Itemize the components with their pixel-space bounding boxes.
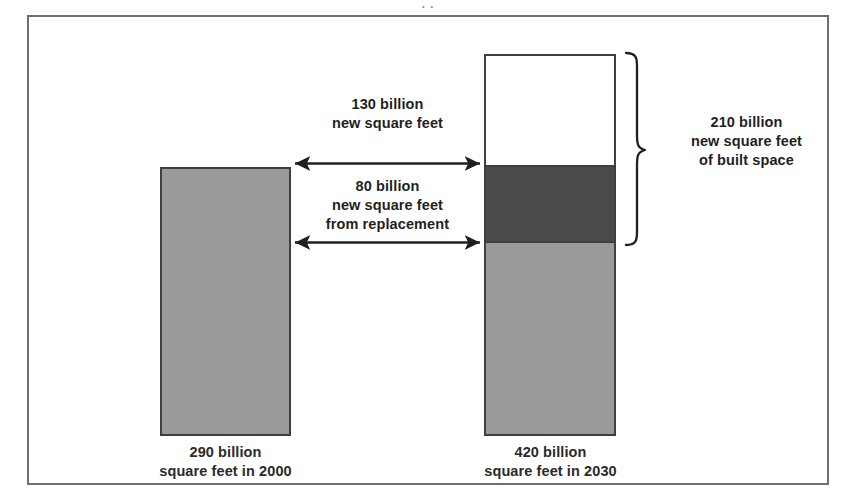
annotation-130-billion: 130 billion new square feet: [291, 95, 484, 133]
figure-root: · ·: [0, 0, 852, 502]
bar-2030-stack: [484, 54, 616, 436]
annotation-80-billion: 80 billion new square feet from replacem…: [291, 177, 484, 234]
annotation-210-line2: new square feet: [649, 132, 844, 151]
bar-label-2000-line2: square feet in 2000: [115, 462, 336, 481]
bar-label-2030: 420 billion square feet in 2030: [440, 443, 661, 481]
cut-off-caption: · ·: [27, 0, 829, 11]
annotation-130-line1: 130 billion: [291, 95, 484, 114]
annotation-80-line3: from replacement: [291, 215, 484, 234]
bar-segment-new-growth: [486, 56, 614, 167]
annotation-130-line2: new square feet: [291, 114, 484, 133]
annotation-210-line1: 210 billion: [649, 113, 844, 132]
annotation-210-line3: of built space: [649, 151, 844, 170]
bar-2000-existing: [160, 167, 291, 436]
annotation-vectors: [29, 17, 852, 502]
annotation-80-line1: 80 billion: [291, 177, 484, 196]
bar-label-2030-line1: 420 billion: [440, 443, 661, 462]
bar-segment-retained: [486, 243, 614, 434]
bar-label-2030-line2: square feet in 2030: [440, 462, 661, 481]
bar-label-2000-line1: 290 billion: [115, 443, 336, 462]
figure-frame: 130 billion new square feet 80 billion n…: [27, 15, 829, 485]
annotation-80-line2: new square feet: [291, 196, 484, 215]
bar-segment-replacement: [486, 167, 614, 243]
bar-label-2000: 290 billion square feet in 2000: [115, 443, 336, 481]
brace-210-billion: [626, 53, 645, 245]
annotation-210-billion: 210 billion new square feet of built spa…: [649, 113, 844, 170]
